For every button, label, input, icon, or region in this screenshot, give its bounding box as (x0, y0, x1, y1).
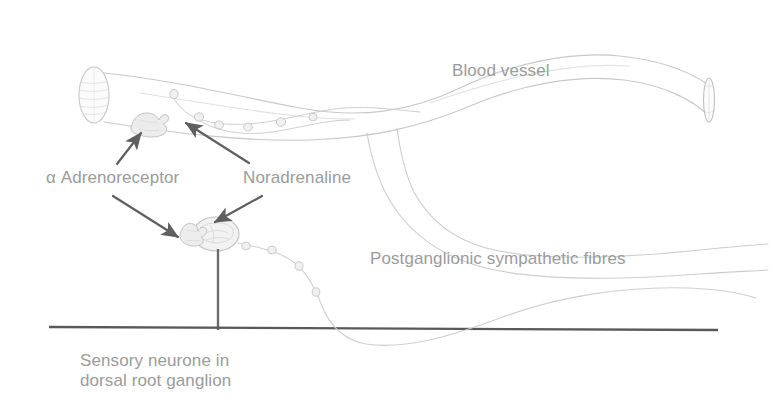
label-postganglionic-sympathetic-fibres: Postganglionic sympathetic fibres (370, 249, 626, 269)
noradrenaline-varicosity-group-lower (242, 242, 320, 296)
noradrenaline-varicosity (295, 262, 303, 270)
diagram-canvas: Blood vessel α Adrenoreceptor Noradrenal… (0, 0, 774, 416)
noradrenaline-varicosity (244, 123, 253, 131)
dorsal-root-ganglion-baseline (49, 327, 718, 330)
noradrenaline-varicosity (215, 121, 224, 129)
postganglionic-fibre-upper (172, 96, 420, 133)
noradrenaline-varicosity (194, 113, 203, 121)
alpha-adrenoreceptor-on-vessel (131, 113, 169, 137)
noradrenaline-varicosity (312, 288, 320, 296)
noradrenaline-varicosity (309, 113, 317, 121)
noradrenaline-varicosity (276, 118, 285, 126)
blood-vessel-tube (95, 55, 709, 140)
label-blood-vessel: Blood vessel (452, 61, 550, 81)
vessel-left-cross-section (79, 67, 109, 123)
vessel-upper-wall (95, 55, 709, 113)
noradrenaline-varicosity (170, 89, 178, 98)
arrow-alpha-to-neurone-receptor (113, 196, 178, 237)
label-sensory-neurone-dorsal-root-ganglion: Sensory neurone in dorsal root ganglion (80, 351, 231, 391)
vessel-lower-wall (104, 78, 709, 140)
alpha-adrenoreceptor-on-neurone (180, 223, 207, 246)
arrow-alpha-to-vessel-receptor (117, 133, 141, 164)
label-alpha-adrenoreceptor: α Adrenoreceptor (46, 168, 179, 188)
vessel-right-cross-section (704, 78, 715, 122)
noradrenaline-varicosity (242, 242, 250, 250)
arrow-noradrenaline-to-neurone-varicosity (215, 196, 262, 222)
noradrenaline-varicosity (268, 246, 276, 254)
label-noradrenaline: Noradrenaline (243, 168, 351, 188)
